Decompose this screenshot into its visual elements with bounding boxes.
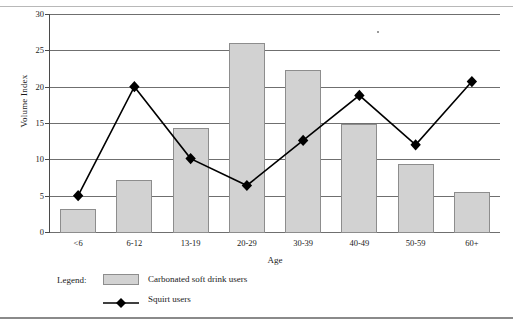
- y-tick-label-30: 30: [4, 9, 44, 19]
- x-label-13-19: 13-19: [163, 238, 219, 248]
- y-tick-label-20: 20: [4, 82, 44, 92]
- y-axis-title: Volume Index: [19, 41, 29, 161]
- x-label-6-12: 6-12: [106, 238, 162, 248]
- y-tick-label-10: 10: [4, 154, 44, 164]
- marker-<6: [73, 190, 83, 201]
- legend-line-label: Squirt users: [148, 294, 191, 304]
- chart-legend: Legend: Carbonated soft drink users Squi…: [0, 272, 513, 316]
- line-series-squirt-users: [50, 14, 500, 233]
- y-tick-label-5: 5: [4, 191, 44, 201]
- legend-bar-swatch: [103, 274, 139, 285]
- x-label-<6: <6: [50, 238, 106, 248]
- legend-title: Legend:: [57, 275, 87, 285]
- x-label-60+: 60+: [444, 238, 500, 248]
- x-label-50-59: 50-59: [388, 238, 444, 248]
- plot-area: 051015202530 <66-1213-1920-2930-3940-495…: [50, 14, 500, 232]
- volume-index-chart: Volume Index Age 051015202530 <66-1213-1…: [0, 0, 513, 326]
- x-label-40-49: 40-49: [331, 238, 387, 248]
- legend-bar-label: Carbonated soft drink users: [148, 274, 247, 284]
- y-tick-label-25: 25: [4, 45, 44, 55]
- x-label-20-29: 20-29: [219, 238, 275, 248]
- legend-line-marker: [103, 297, 139, 309]
- page-bottom-rule: [0, 317, 513, 319]
- y-tick-label-0: 0: [4, 227, 44, 237]
- x-axis-title: Age: [50, 255, 500, 265]
- x-label-30-39: 30-39: [275, 238, 331, 248]
- line-path-squirt-users: [78, 82, 472, 196]
- y-tick-label-15: 15: [4, 118, 44, 128]
